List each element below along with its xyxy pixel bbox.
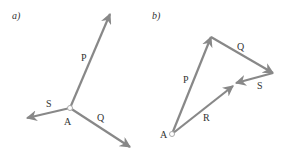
- label-q-a: Q: [97, 112, 105, 123]
- label-p-a: P: [81, 52, 87, 63]
- label-s-b: S: [257, 80, 263, 91]
- panel-a: a) P S A Q: [12, 10, 130, 147]
- vector-s-b: [236, 73, 273, 83]
- panel-b-label: b): [152, 10, 161, 22]
- label-s-a: S: [46, 98, 52, 109]
- point-a-panel-b: [170, 132, 175, 137]
- label-a-a: A: [64, 116, 72, 127]
- label-a-b: A: [160, 129, 168, 140]
- vector-p-a: [70, 14, 110, 108]
- point-a-panel-a: [68, 106, 73, 111]
- label-r-b: R: [203, 112, 210, 123]
- vector-diagram: a) P S A Q b) Q P S R A: [0, 0, 285, 152]
- panel-a-label: a): [12, 10, 21, 22]
- panel-b: b) Q P S R A: [152, 10, 273, 140]
- label-p-b: P: [183, 74, 189, 85]
- label-q-b: Q: [237, 41, 245, 52]
